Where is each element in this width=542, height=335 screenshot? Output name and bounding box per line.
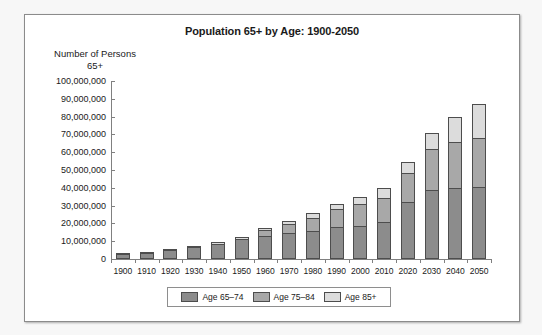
legend-label: Age 65–74 bbox=[202, 292, 243, 302]
bar-segment bbox=[258, 236, 272, 259]
legend-item: Age 65–74 bbox=[181, 292, 243, 302]
x-axis-tick-mark bbox=[420, 259, 421, 263]
x-axis-tick-mark bbox=[491, 259, 492, 263]
bar-segment bbox=[282, 233, 296, 259]
bar-segment bbox=[163, 250, 177, 259]
x-axis-tick-mark bbox=[135, 259, 136, 263]
y-axis-tick-label: 80,000,000 bbox=[25, 112, 111, 122]
bar-segment bbox=[140, 253, 154, 259]
bar-column bbox=[211, 242, 225, 259]
bar-segment bbox=[282, 224, 296, 233]
x-axis-tick-mark bbox=[444, 259, 445, 263]
x-axis-tick-mark bbox=[301, 259, 302, 263]
legend-label: Age 85+ bbox=[345, 292, 377, 302]
bar-segment bbox=[377, 188, 391, 198]
x-axis-tick-label: 2050 bbox=[464, 266, 494, 276]
screenshot-page: Population 65+ by Age: 1900-2050 Number … bbox=[0, 0, 542, 335]
bar-column bbox=[235, 237, 249, 259]
y-axis-tick-label: 60,000,000 bbox=[25, 147, 111, 157]
x-axis-tick-mark bbox=[230, 259, 231, 263]
bar-column bbox=[353, 197, 367, 259]
bar-column bbox=[448, 117, 462, 259]
bar-column bbox=[187, 246, 201, 259]
bar-segment bbox=[448, 117, 462, 142]
x-axis-tick-mark bbox=[467, 259, 468, 263]
legend-swatch-icon bbox=[181, 292, 198, 302]
x-axis-tick-mark bbox=[349, 259, 350, 263]
bar-column bbox=[472, 104, 486, 259]
bar-segment bbox=[306, 231, 320, 259]
x-axis-tick-mark bbox=[182, 259, 183, 263]
x-axis-tick-mark bbox=[111, 259, 112, 263]
y-axis-tick-label: 20,000,000 bbox=[25, 218, 111, 228]
bar-segment bbox=[235, 239, 249, 259]
bar-segment bbox=[377, 198, 391, 221]
bar-segment bbox=[258, 230, 272, 237]
x-axis-tick-mark bbox=[254, 259, 255, 263]
bar-series-group bbox=[111, 81, 491, 259]
y-axis-tick-label: 50,000,000 bbox=[25, 165, 111, 175]
x-axis-tick-mark bbox=[325, 259, 326, 263]
bar-segment bbox=[306, 218, 320, 232]
bar-segment bbox=[211, 244, 225, 259]
bar-column bbox=[401, 162, 415, 259]
bar-segment bbox=[377, 222, 391, 259]
y-axis-tick-label: 0 bbox=[25, 254, 111, 264]
bar-segment bbox=[330, 227, 344, 259]
bar-column bbox=[116, 253, 130, 259]
legend-swatch-icon bbox=[253, 292, 270, 302]
chart-legend: Age 65–74Age 75–84Age 85+ bbox=[167, 287, 391, 307]
y-axis-tick-label: 100,000,000 bbox=[25, 76, 111, 86]
bar-column bbox=[425, 133, 439, 259]
bar-segment bbox=[472, 138, 486, 187]
legend-item: Age 85+ bbox=[324, 292, 377, 302]
bar-column bbox=[140, 252, 154, 259]
bar-segment bbox=[401, 173, 415, 201]
y-axis-tick-label: 90,000,000 bbox=[25, 94, 111, 104]
bar-segment bbox=[425, 133, 439, 148]
legend-swatch-icon bbox=[324, 292, 341, 302]
x-axis-tick-mark bbox=[159, 259, 160, 263]
y-axis-tick-label: 30,000,000 bbox=[25, 201, 111, 211]
bar-column bbox=[377, 188, 391, 259]
legend-label: Age 75–84 bbox=[274, 292, 315, 302]
bar-column bbox=[330, 204, 344, 260]
bar-segment bbox=[472, 104, 486, 138]
bar-segment bbox=[116, 254, 130, 259]
x-axis-tick-mark bbox=[396, 259, 397, 263]
bar-column bbox=[282, 221, 296, 259]
y-axis-tick-label: 10,000,000 bbox=[25, 236, 111, 246]
legend-item: Age 75–84 bbox=[253, 292, 315, 302]
bar-segment bbox=[353, 197, 367, 204]
bar-column bbox=[163, 249, 177, 259]
bar-segment bbox=[353, 226, 367, 259]
bar-segment bbox=[448, 188, 462, 259]
bar-segment bbox=[401, 202, 415, 259]
bar-column bbox=[258, 228, 272, 259]
bar-column bbox=[306, 213, 320, 259]
bar-segment bbox=[425, 149, 439, 191]
x-axis-tick-mark bbox=[206, 259, 207, 263]
chart-card: Population 65+ by Age: 1900-2050 Number … bbox=[24, 14, 520, 322]
bar-segment bbox=[353, 204, 367, 226]
x-axis-tick-mark bbox=[277, 259, 278, 263]
bar-segment bbox=[425, 190, 439, 259]
x-axis-tick-mark bbox=[372, 259, 373, 263]
bar-segment bbox=[187, 247, 201, 259]
bar-segment bbox=[401, 162, 415, 174]
bar-segment bbox=[330, 209, 344, 227]
y-axis-tick-label: 40,000,000 bbox=[25, 183, 111, 193]
bar-segment bbox=[448, 142, 462, 188]
bar-segment bbox=[472, 187, 486, 259]
plot-area: 100,000,00090,000,00080,000,00070,000,00… bbox=[25, 15, 519, 321]
y-axis-tick-label: 70,000,000 bbox=[25, 129, 111, 139]
